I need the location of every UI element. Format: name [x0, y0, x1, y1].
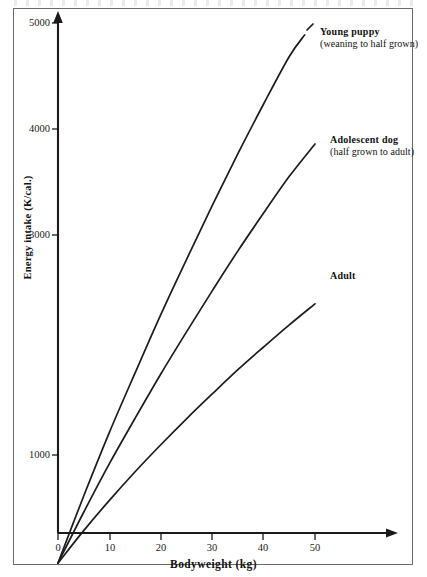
series-label-adult: Adult [330, 270, 356, 282]
x-tick-label-0: 0 [44, 542, 72, 553]
x-axis [58, 528, 398, 537]
y-tick-label-5000: 5000 [8, 17, 50, 28]
series-name-adolescent-dog: Adolescent dog [330, 134, 414, 146]
leader-young-puppy [307, 24, 313, 30]
series-label-young-puppy: Young puppy (weaning to half grown) [320, 26, 418, 50]
series-label-adolescent-dog: Adolescent dog (half grown to adult) [330, 134, 414, 158]
curve-adult [58, 304, 315, 563]
y-axis-arrowhead [53, 11, 63, 23]
y-tick-label-4000: 4000 [8, 123, 50, 134]
x-axis-title: Bodyweight (kg) [0, 558, 427, 570]
series-sublabel-young-puppy: (weaning to half grown) [320, 38, 418, 50]
x-tick-label-10: 10 [96, 542, 124, 553]
x-tick-label-40: 40 [249, 542, 277, 553]
x-tick-label-50: 50 [301, 542, 329, 553]
chart-plot-area [0, 0, 427, 577]
y-axis-title: Energy intake (K/cal.) [22, 153, 33, 303]
curve-adolescent-dog [58, 144, 315, 563]
series-sublabel-adolescent-dog: (half grown to adult) [330, 146, 414, 158]
x-axis-arrowhead [386, 528, 398, 537]
x-tick-label-30: 30 [198, 542, 226, 553]
series-name-adult: Adult [330, 270, 356, 282]
series-name-young-puppy: Young puppy [320, 26, 418, 38]
y-tick-label-1000: 1000 [8, 449, 50, 460]
curve-young-puppy [58, 35, 305, 563]
x-tick-label-20: 20 [147, 542, 175, 553]
energy-intake-chart: 5000 4000 3000 1000 0 10 20 30 40 50 Bod… [0, 0, 427, 577]
